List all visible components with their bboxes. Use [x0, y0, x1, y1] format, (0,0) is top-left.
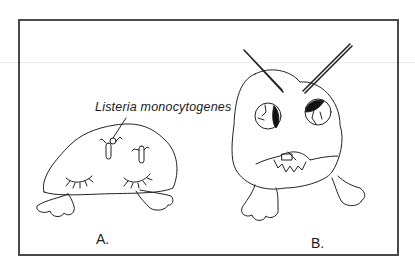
cell-a [37, 118, 177, 217]
panel-label-b: B. [311, 235, 324, 251]
angry-eye-right [305, 99, 331, 125]
angry-eye-left [255, 103, 281, 129]
closed-eye-left [66, 176, 93, 188]
cell-b [232, 44, 365, 220]
cartoon-illustration [0, 0, 415, 269]
listeria-bacterium-2 [132, 146, 149, 163]
left-foot-b [242, 185, 279, 220]
listeria-bacterium-1 [100, 137, 122, 159]
right-eyebrow [303, 44, 352, 93]
panel-label-a: A. [96, 231, 109, 247]
species-annotation: Listeria monocytogenes [95, 100, 231, 114]
toothy-mouth [256, 152, 338, 172]
left-foot-a [37, 194, 75, 217]
closed-eye-right [124, 174, 152, 188]
right-foot-b [332, 176, 365, 206]
annotation-pointer [113, 118, 126, 138]
left-eyebrow [244, 50, 283, 92]
